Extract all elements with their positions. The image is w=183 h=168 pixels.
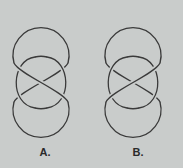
figure-b: B. bbox=[91, 0, 183, 168]
knot-a-middle-loop-top bbox=[35, 56, 47, 57]
knot-a-middle-loop-left-gap bbox=[16, 57, 35, 108]
knot-b-middle-loop-top bbox=[127, 56, 139, 57]
figure-a: A. bbox=[0, 0, 92, 168]
knot-diagram-a bbox=[0, 0, 92, 145]
knot-diagram-b bbox=[91, 0, 183, 145]
figure-b-label: B. bbox=[92, 146, 183, 158]
knot-a-middle-loop-right-gap bbox=[47, 57, 66, 108]
knot-b-middle-loop-left-gap bbox=[108, 57, 127, 108]
knot-b-middle-loop-right-gap bbox=[139, 57, 158, 108]
knot-a-middle-loop-bottom bbox=[35, 108, 47, 109]
knot-b-middle-loop-bottom bbox=[127, 108, 139, 109]
figure-a-label: A. bbox=[0, 146, 91, 158]
